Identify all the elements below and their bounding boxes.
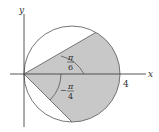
angle-upper-denominator: 6 bbox=[68, 63, 73, 72]
x-axis-label: x bbox=[148, 69, 153, 79]
x-tick-4: 4 bbox=[123, 79, 129, 89]
angle-lower-sign: − bbox=[60, 86, 67, 95]
angle-lower-denominator: 4 bbox=[68, 92, 73, 101]
angle-upper-numerator: π bbox=[67, 53, 74, 62]
y-axis-label: y bbox=[18, 5, 25, 15]
angle-lower-numerator: π bbox=[67, 82, 74, 91]
polar-diagram: y x 4 π 6 − π 4 bbox=[0, 0, 159, 132]
